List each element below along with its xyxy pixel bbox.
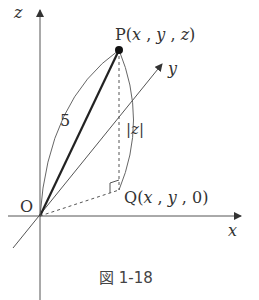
x-axis-label: x [228,221,237,240]
pq-length-label: |z| [126,120,144,138]
point-p-dot [115,46,123,54]
z-axis-label: z [13,3,23,22]
point-q-label: Q(x , y , 0) [124,188,208,207]
y-axis [13,64,162,248]
segment-oq-dashed [40,190,119,216]
segment-op [40,50,119,216]
figure-caption: 図 1-18 [99,269,153,287]
op-length-label: 5 [60,111,70,130]
origin-label: O [20,197,33,216]
coordinate-diagram: z y x O P(x , y , z) Q(x , y , 0) 5 |z| … [0,0,259,300]
y-axis-label: y [167,59,178,78]
point-p-label: P(x , y , z) [115,25,195,44]
